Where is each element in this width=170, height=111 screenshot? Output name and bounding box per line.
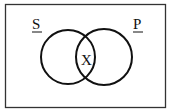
label-p: P: [133, 16, 141, 32]
label-s: S: [32, 16, 40, 32]
label-intersection: X: [81, 52, 92, 68]
venn-diagram: S P X: [0, 0, 170, 111]
